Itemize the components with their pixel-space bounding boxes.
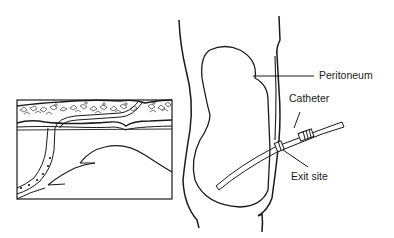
torso-left-contour: [179, 20, 199, 228]
label-exit-site: Exit site: [291, 171, 328, 182]
catheter-leader-line: [294, 112, 300, 128]
fascia-line-1: [17, 120, 172, 126]
torso-right-contour-upper: [277, 16, 280, 140]
exit-site-leader-line: [283, 150, 308, 167]
bowel-bottom: [17, 188, 45, 199]
peritoneal-cavity: [193, 47, 270, 208]
catheter-intraperitoneal-left: [17, 128, 48, 188]
torso-outline: [179, 16, 280, 232]
torso-right-inner-line: [275, 56, 276, 140]
diagram-canvas: [0, 0, 394, 238]
bowel-loop-small: [48, 163, 95, 185]
inset-cross-section: [17, 100, 172, 199]
skin-surface: [17, 100, 172, 106]
bowel-loop-large: [80, 146, 172, 172]
label-catheter: Catheter: [289, 93, 329, 104]
fascia-line-3: [17, 129, 172, 130]
label-peritoneum: Peritoneum: [319, 70, 373, 81]
bowel-loop-small-tail: [48, 184, 65, 185]
